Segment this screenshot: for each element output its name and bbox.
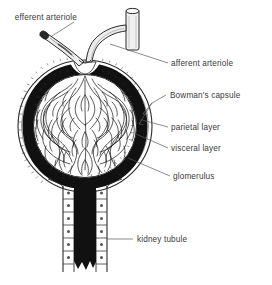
label-glomerulus: glomerulus <box>173 172 215 181</box>
vessel-stub <box>126 8 139 50</box>
label-visceral-layer: visceral layer <box>171 144 221 153</box>
label-afferent-arteriole: afferent arteriole <box>171 59 233 68</box>
renal-corpuscle-diagram: efferent arteriole afferent arteriole Bo… <box>0 0 272 285</box>
label-efferent-arteriole: efferent arteriole <box>15 13 77 22</box>
label-parietal-layer: parietal layer <box>171 123 220 132</box>
label-bowmans-capsule: Bowman's capsule <box>170 91 241 100</box>
label-kidney-tubule: kidney tubule <box>137 235 187 244</box>
